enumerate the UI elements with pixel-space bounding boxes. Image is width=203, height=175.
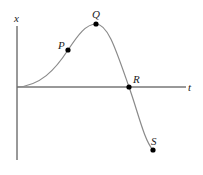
point-q-label: Q bbox=[92, 8, 100, 20]
point-s bbox=[150, 147, 155, 152]
point-q bbox=[93, 21, 98, 26]
point-s-label: S bbox=[151, 135, 157, 147]
point-r-label: R bbox=[132, 73, 140, 85]
t-axis-label: t bbox=[188, 81, 192, 93]
point-p bbox=[65, 47, 70, 52]
point-r bbox=[126, 84, 131, 89]
point-p-label: P bbox=[57, 39, 65, 51]
x-axis-label: x bbox=[13, 12, 19, 24]
position-time-graph: x t P Q R S bbox=[0, 0, 203, 175]
